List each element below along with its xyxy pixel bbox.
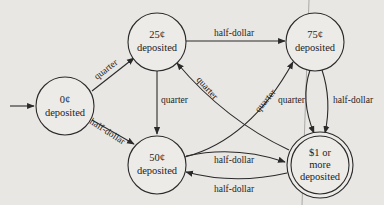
edge-s25-s75: half-dollar — [186, 28, 285, 41]
state-label-line2: deposited — [295, 42, 336, 53]
state-label-line2: deposited — [137, 42, 178, 53]
state-label-line1: $1 or — [309, 147, 331, 158]
edge-label: half-dollar — [88, 116, 128, 147]
state-0-cents: 0¢ deposited — [36, 77, 94, 135]
edge-s0-s25: quarter — [92, 57, 134, 91]
state-75-cents: 75¢ deposited — [286, 13, 344, 71]
edge-label: half-dollar — [333, 95, 374, 105]
state-label-line2: deposited — [137, 165, 178, 176]
edge-s25-s50: quarter — [157, 71, 189, 134]
state-50-cents: 50¢ deposited — [128, 136, 186, 194]
state-label-line1: 25¢ — [149, 29, 165, 40]
state-1-dollar-accepting: $1 or more deposited — [287, 132, 353, 198]
edge-label: quarter — [278, 95, 306, 105]
state-diagram: quarter half-dollar half-dollar quarter … — [0, 0, 384, 205]
edge-label: quarter — [161, 95, 189, 105]
state-label-line1: 75¢ — [307, 29, 323, 40]
edge-label: half-dollar — [214, 28, 255, 38]
state-label-line2: deposited — [45, 107, 86, 118]
edge-label: half-dollar — [214, 155, 255, 165]
edge-label: quarter — [92, 57, 120, 82]
state-label-line1: 0¢ — [60, 94, 71, 105]
edge-label: half-dollar — [214, 184, 255, 194]
edge-label: quarter — [195, 75, 221, 102]
edge-s0-s50: half-dollar — [88, 116, 134, 147]
edge-s50-s100: half-dollar — [186, 152, 285, 165]
edge-s75-s100-half-dollar: half-dollar — [322, 70, 374, 133]
edge-s100-s25: quarter — [177, 63, 289, 150]
edge-s75-s100-quarter: quarter — [278, 70, 314, 133]
state-25-cents: 25¢ deposited — [128, 13, 186, 71]
edge-s100-s50: half-dollar — [186, 172, 287, 194]
state-label-line1: 50¢ — [149, 152, 165, 163]
state-label-line2: more — [309, 159, 331, 170]
state-label-line3: deposited — [300, 171, 341, 182]
